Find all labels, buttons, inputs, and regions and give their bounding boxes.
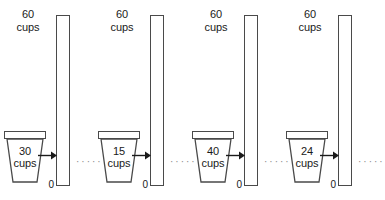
bar-top-unit: cups (194, 21, 238, 34)
bar-top-value: 60 (288, 8, 332, 21)
transfer-arrow-icon (226, 150, 245, 161)
measure-unit: 60 cups 0 15 cups ····· (94, 0, 189, 200)
separator-dots: ····· (358, 157, 385, 167)
bar-top-unit: cups (288, 21, 332, 34)
measure-unit: 60 cups 0 40 cups ····· (188, 0, 283, 200)
bar-top-label: 60 cups (288, 8, 332, 34)
measuring-bar (244, 15, 258, 186)
bar-top-value: 60 (6, 8, 50, 21)
transfer-arrow-icon (320, 150, 339, 161)
bar-top-unit: cups (100, 21, 144, 34)
measure-unit: 60 cups 0 30 cups ····· (0, 0, 95, 200)
bar-top-label: 60 cups (100, 8, 144, 34)
bar-top-label: 60 cups (6, 8, 50, 34)
measuring-bar (338, 15, 352, 186)
measuring-bar (56, 15, 70, 186)
bar-top-label: 60 cups (194, 8, 238, 34)
transfer-arrow-icon (38, 150, 57, 161)
measuring-bar (150, 15, 164, 186)
bar-top-value: 60 (100, 8, 144, 21)
transfer-arrow-icon (132, 150, 151, 161)
measure-unit: 60 cups 0 24 cups ····· (282, 0, 377, 200)
bar-top-unit: cups (6, 21, 50, 34)
bar-top-value: 60 (194, 8, 238, 21)
